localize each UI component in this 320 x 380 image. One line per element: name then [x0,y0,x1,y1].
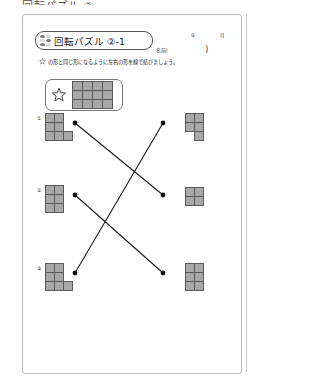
page-title: 回転パズル ②-1 [54,34,125,48]
item-number-3: ③ [37,265,41,271]
line-left1-to-right2[interactable] [75,123,163,195]
line-left2-to-right3[interactable] [75,195,163,273]
right-dot-2[interactable] [161,193,166,198]
date-month-label: 月 [220,32,224,38]
name-label: 名前( [156,47,168,53]
right-shape-a [185,113,204,141]
page-right-margin [246,14,278,372]
left-dot-2[interactable] [73,193,78,198]
braille-dots-icon [40,35,51,46]
cropped-page-header: 回転パズル ② [22,0,94,13]
item-number-2: ② [37,187,41,193]
name-field[interactable]: 名前( ) [156,45,208,54]
item-number-1: ① [37,115,41,121]
date-fields: 年 月 日 [191,32,253,38]
date-year-label: 年 [191,32,195,38]
instruction-label: の形と同じ形になるように左右の形を線で結びましょう。 [48,58,178,65]
line-left3-to-right1[interactable] [75,123,163,273]
right-shape-b [185,187,204,206]
right-shape-c [185,263,204,291]
star-icon [51,87,67,103]
worksheet-sheet: 回転パズル ②-1 年 月 日 名前( ) の形と同じ形になるように左右の形を線… [22,14,242,374]
worksheet-title-box: 回転パズル ②-1 [35,31,153,50]
left-shape-3 [45,263,73,291]
left-shape-1 [45,113,73,141]
star-icon [39,58,46,65]
instruction-text-row: の形と同じ形になるように左右の形を線で結びましょう。 [39,58,229,65]
left-shape-2 [45,185,64,213]
example-shape [72,81,113,109]
left-dot-3[interactable] [73,271,78,276]
name-close-paren: ) [205,45,208,54]
right-dot-3[interactable] [161,271,166,276]
right-dot-1[interactable] [161,121,166,126]
left-dot-1[interactable] [73,121,78,126]
example-box [45,79,123,111]
